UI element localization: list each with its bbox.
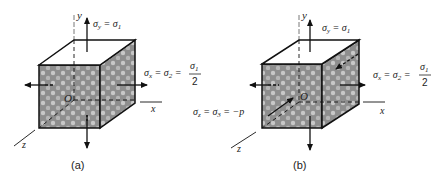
figure-b: y x z O σy = σ1 σx = σ2 = σ1 2 σz = σ3 =… [193,9,431,171]
origin-label: O [300,90,308,102]
caption-a: (a) [71,159,84,171]
fraction-denominator: 2 [192,76,198,87]
z-axis-label: z [236,143,241,154]
z-axis-label: z [21,139,26,150]
fraction-denominator: 2 [422,77,428,88]
stress-diagram: y x z O σy = σ1 σx = σ2 = σ1 2 (a) y x z [0,0,442,183]
origin-label: O [64,92,72,104]
y-axis-label: y [301,9,307,21]
figure-a: y x z O σy = σ1 σx = σ2 = σ1 2 (a) [14,9,201,171]
x-axis-label: x [150,103,156,114]
x-axis-label: x [379,105,385,116]
sigma-z-label: σz = σ3 = −p [193,106,244,119]
fraction-numerator: σ1 [190,60,198,73]
fraction-numerator: σ1 [420,61,428,74]
caption-b: (b) [293,159,306,171]
sigma-x-label: σx = σ2 = [144,67,181,80]
sigma-y-label: σy = σ1 [93,18,121,31]
sigma-x-label: σx = σ2 = [373,69,410,82]
sigma-y-label: σy = σ1 [322,22,350,35]
y-axis-label: y [76,9,82,21]
cube-front-face [262,64,322,128]
